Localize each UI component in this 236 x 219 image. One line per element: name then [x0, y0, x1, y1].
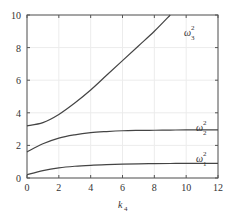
- y-tick-label: 8: [16, 43, 21, 54]
- y-tick-label: 2: [16, 140, 21, 151]
- x-tick-label: 6: [120, 182, 125, 193]
- x-tick-label: 4: [88, 182, 93, 193]
- y-tick-label: 4: [16, 108, 21, 119]
- x-tick-label: 0: [25, 182, 30, 193]
- svg-text:3: 3: [191, 34, 195, 42]
- label-omega1: ω 2 1: [196, 150, 207, 168]
- gridlines: [27, 15, 218, 178]
- y-tick-label: 10: [11, 10, 21, 21]
- label-omega2: ω 2 2: [196, 119, 207, 137]
- svg-text:2: 2: [203, 150, 207, 158]
- y-tick-label: 6: [16, 75, 21, 86]
- svg-text:ω: ω: [196, 122, 203, 133]
- svg-text:2: 2: [203, 119, 207, 127]
- y-tick-label: 0: [16, 173, 21, 184]
- curve-omega3: [27, 15, 170, 126]
- label-omega3: ω 2 3: [184, 24, 195, 42]
- svg-text:ω: ω: [196, 153, 203, 164]
- svg-text:2: 2: [203, 129, 207, 137]
- x-tick-label: 8: [152, 182, 157, 193]
- svg-text:k: k: [118, 199, 123, 210]
- chart: 0246810120246810 ω 2 3 ω 2 2 ω 2 1 k 4: [0, 0, 236, 219]
- x-axis-label: k 4: [118, 199, 128, 213]
- svg-text:4: 4: [124, 205, 128, 213]
- x-tick-label: 2: [56, 182, 61, 193]
- svg-text:ω: ω: [184, 27, 191, 38]
- svg-text:1: 1: [203, 160, 207, 168]
- svg-text:2: 2: [191, 24, 195, 32]
- x-tick-label: 10: [181, 182, 191, 193]
- x-tick-label: 12: [213, 182, 223, 193]
